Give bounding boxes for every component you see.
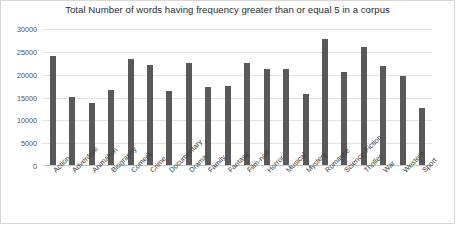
bar [225,86,231,165]
x-axis-category-labels: ActionAdventureAnimationBiographyComedyC… [43,168,432,224]
gridline [43,29,432,30]
y-axis-tick-label: 10000 [17,116,37,125]
bar [69,97,75,166]
y-axis-tick-labels: 050001000015000200002500030000 [1,29,39,166]
gridline [43,75,432,76]
y-axis-tick-label: 15000 [17,93,37,102]
chart-title: Total Number of words having frequency g… [1,4,454,15]
y-axis-tick-label: 30000 [17,25,37,34]
bar [50,56,56,165]
bar [166,91,172,165]
gridline [43,120,432,121]
gridline [43,98,432,99]
y-axis-tick-label: 0 [33,162,37,171]
y-axis-tick-label: 5000 [21,139,37,148]
bar [283,69,289,165]
y-axis-tick-label: 20000 [17,70,37,79]
y-axis-tick-label: 25000 [17,47,37,56]
gridline [43,52,432,53]
bar [322,39,328,165]
bar [380,66,386,165]
bar [400,76,406,166]
bar [205,87,211,165]
chart-container: Total Number of words having frequency g… [0,0,455,224]
